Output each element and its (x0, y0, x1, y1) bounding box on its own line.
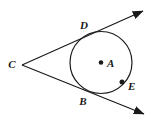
point-e-dot (120, 80, 125, 85)
point-label-a: A (106, 57, 114, 69)
point-label-d: D (79, 19, 88, 31)
point-label-c: C (8, 58, 16, 70)
point-label-e: E (127, 80, 135, 92)
geometry-diagram: C D B A E (0, 0, 156, 122)
point-label-b: B (78, 95, 86, 107)
geometry-figure-svg: C D B A E (0, 0, 156, 122)
point-a-dot (99, 60, 104, 65)
